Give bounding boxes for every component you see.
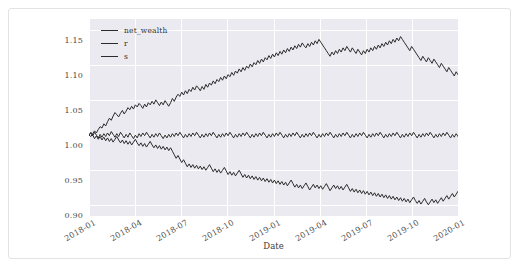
legend-label-s: s xyxy=(124,52,128,61)
y-tick-label-0: 0.90 xyxy=(13,211,83,220)
figure: 0.900.951.001.051.101.15 2018-012018-042… xyxy=(9,9,512,260)
legend-swatch-net_wealth xyxy=(101,30,118,31)
series-line-s xyxy=(89,132,458,204)
x-axis-label: Date xyxy=(89,241,458,251)
legend-item-net_wealth: net_wealth xyxy=(101,25,168,36)
series-line-r xyxy=(89,132,458,139)
legend-item-s: s xyxy=(101,51,168,62)
y-tick-label-3: 1.05 xyxy=(13,105,83,114)
legend-label-r: r xyxy=(124,39,128,48)
legend-item-r: r xyxy=(101,38,168,49)
y-axis: 0.900.951.001.051.101.15 xyxy=(9,19,83,216)
y-tick-label-2: 1.00 xyxy=(13,141,83,150)
legend-swatch-r xyxy=(101,43,118,44)
legend-swatch-s xyxy=(101,56,118,57)
y-tick-label-5: 1.15 xyxy=(13,35,83,44)
legend: net_wealthrs xyxy=(97,23,172,66)
y-tick-label-1: 0.95 xyxy=(13,176,83,185)
y-tick-label-4: 1.10 xyxy=(13,70,83,79)
chart-card: 0.900.951.001.051.101.15 2018-012018-042… xyxy=(8,8,511,259)
legend-label-net_wealth: net_wealth xyxy=(124,26,168,35)
